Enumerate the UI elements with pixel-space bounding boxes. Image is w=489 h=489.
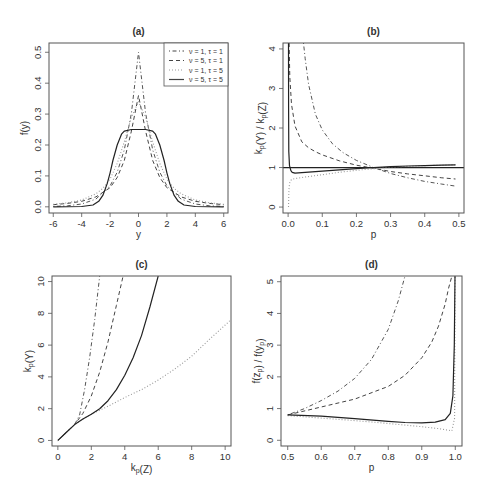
y-tick-label: 2 — [266, 125, 277, 130]
panel-title: (c) — [135, 259, 147, 270]
x-tick-label: 4 — [122, 451, 127, 462]
x-axis-label: kp(Z) — [131, 462, 153, 475]
x-tick-label: 0.6 — [315, 451, 328, 462]
x-tick-label: -4 — [77, 218, 85, 229]
y-tick-label: 5 — [264, 279, 275, 284]
panel-a: (a)-6-4-202460.00.10.20.30.40.5yf(y)ν = … — [19, 26, 228, 240]
y-tick-label: 0 — [264, 438, 275, 443]
y-tick-label: 3 — [264, 342, 275, 347]
x-tick-label: 0.3 — [384, 218, 397, 229]
panel-title: (d) — [365, 259, 378, 270]
x-tick-label: 10 — [220, 451, 231, 462]
series-line — [289, 43, 455, 179]
x-tick-label: 0.5 — [281, 451, 294, 462]
legend-label: ν = 5, τ = 1 — [189, 57, 223, 64]
series-line — [58, 320, 231, 441]
x-tick-label: 6 — [221, 218, 226, 229]
y-tick-label: 2 — [35, 406, 46, 411]
panel-c: (c)02468100246810kp(Z)kp(Y) — [22, 259, 231, 475]
panel-d: (d)0.50.60.70.80.91.0012345pf(zp) / f(yp… — [251, 259, 462, 473]
y-axis-label: f(y) — [19, 121, 30, 135]
legend-label: ν = 5, τ = 5 — [189, 76, 223, 83]
legend-label: ν = 1, τ = 5 — [189, 67, 223, 74]
x-axis-label: p — [369, 462, 375, 473]
plot-area — [58, 276, 231, 440]
x-tick-label: 8 — [189, 451, 194, 462]
y-tick-label: 1 — [264, 406, 275, 411]
y-tick-label: 4 — [264, 311, 275, 316]
y-tick-label: 0 — [35, 438, 46, 443]
series-line — [288, 276, 452, 415]
y-tick-label: 4 — [266, 46, 277, 51]
y-tick-label: 6 — [35, 342, 46, 347]
x-tick-label: 0.2 — [350, 218, 363, 229]
x-tick-label: -2 — [106, 218, 114, 229]
axes-box — [52, 276, 231, 446]
panel-title: (a) — [132, 26, 144, 37]
plot-area — [283, 43, 464, 207]
x-tick-label: 6 — [156, 451, 161, 462]
x-axis-label: p — [371, 229, 377, 240]
y-tick-label: 0.3 — [32, 107, 43, 120]
panel-b: (b)0.00.10.20.30.40.501234pkp(Y) / kp(Z) — [253, 26, 465, 240]
x-tick-label: 4 — [193, 218, 198, 229]
y-tick-label: 0.0 — [32, 200, 43, 213]
y-tick-label: 0.2 — [32, 138, 43, 151]
y-tick-label: 3 — [266, 86, 277, 91]
series-line — [288, 276, 405, 415]
y-axis-label: kp(Y) — [22, 350, 35, 372]
series-line — [58, 276, 123, 440]
figure: (a)-6-4-202460.00.10.20.30.40.5yf(y)ν = … — [0, 0, 489, 489]
series-line — [58, 276, 100, 440]
series-line — [53, 102, 223, 205]
x-tick-label: 2 — [164, 218, 169, 229]
x-tick-label: 0.7 — [348, 451, 361, 462]
y-tick-label: 0.1 — [32, 169, 43, 182]
legend: ν = 1, τ = 1ν = 5, τ = 1ν = 1, τ = 5ν = … — [164, 43, 228, 86]
legend-label: ν = 1, τ = 1 — [189, 48, 223, 55]
y-tick-label: 1 — [266, 165, 277, 170]
y-tick-label: 0.4 — [32, 77, 43, 90]
y-tick-label: 0.5 — [32, 46, 43, 59]
x-tick-label: 0.0 — [282, 218, 295, 229]
x-tick-label: 0 — [136, 218, 141, 229]
x-tick-label: 0.1 — [316, 218, 329, 229]
plot-area — [288, 276, 455, 431]
y-tick-label: 4 — [35, 374, 46, 379]
x-tick-label: 0.8 — [382, 451, 395, 462]
x-tick-label: 0 — [55, 451, 60, 462]
series-line — [289, 165, 456, 207]
axes-box — [283, 43, 464, 213]
x-tick-label: 0.9 — [415, 451, 428, 462]
x-tick-label: 0.5 — [452, 218, 465, 229]
series-line — [58, 276, 158, 440]
y-tick-label: 2 — [264, 374, 275, 379]
y-axis-label: kp(Y) / kp(Z) — [253, 102, 268, 154]
series-line — [288, 276, 455, 423]
series-line — [304, 43, 456, 186]
x-axis-label: y — [136, 229, 141, 240]
series-line — [288, 276, 455, 431]
panel-title: (b) — [367, 26, 380, 37]
y-tick-label: 8 — [35, 311, 46, 316]
y-tick-label: 0 — [266, 204, 277, 209]
x-tick-label: 1.0 — [449, 451, 462, 462]
x-tick-label: 0.4 — [418, 218, 431, 229]
y-tick-label: 10 — [35, 276, 46, 287]
x-tick-label: 2 — [89, 451, 94, 462]
x-tick-label: -6 — [49, 218, 57, 229]
series-line — [53, 130, 223, 207]
series-line — [53, 96, 223, 205]
